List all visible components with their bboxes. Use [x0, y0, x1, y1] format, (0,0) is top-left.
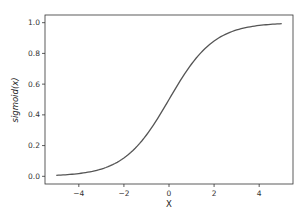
y-axis-ticks: 0.00.20.40.60.81.0 — [28, 18, 45, 181]
y-tick-label: 1.0 — [28, 18, 40, 27]
x-tick-label: 2 — [212, 189, 217, 198]
y-axis-label: sigmoid(x) — [10, 77, 20, 122]
y-tick-label: 0.4 — [28, 110, 40, 119]
y-tick-label: 0.0 — [28, 172, 40, 181]
y-tick-label: 0.8 — [28, 49, 40, 58]
x-tick-label: 0 — [167, 189, 172, 198]
x-tick-label: 4 — [257, 189, 262, 198]
y-tick-label: 0.2 — [28, 141, 40, 150]
x-axis-label: X — [166, 199, 172, 209]
x-axis-ticks: −4−2024 — [73, 184, 262, 198]
sigmoid-chart: 0.00.20.40.60.81.0 −4−2024 X sigmoid(x) — [0, 0, 305, 214]
y-tick-label: 0.6 — [28, 80, 40, 89]
x-tick-label: −2 — [118, 189, 129, 198]
x-tick-label: −4 — [73, 189, 84, 198]
